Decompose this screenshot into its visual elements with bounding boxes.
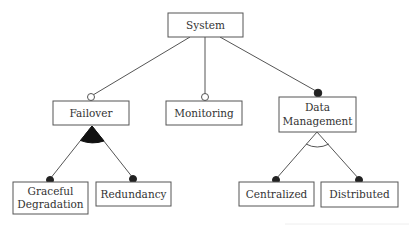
node-label-line2: Degradation xyxy=(17,198,84,210)
node-label-line1: Graceful xyxy=(28,185,74,197)
node-label: System xyxy=(186,19,225,31)
optional-marker-icon xyxy=(88,94,95,101)
node-graceful-degradation: Graceful Degradation xyxy=(13,182,88,214)
node-label: Failover xyxy=(69,107,113,119)
edge-system-failover xyxy=(93,37,190,95)
optional-marker-icon xyxy=(202,94,209,101)
edge-system-data-management xyxy=(220,37,316,91)
edge-dm-centralized xyxy=(276,132,317,179)
node-label-line1: Data xyxy=(305,101,330,113)
node-centralized: Centralized xyxy=(239,182,314,206)
node-failover: Failover xyxy=(53,101,129,125)
edge-dm-distributed xyxy=(317,132,359,179)
node-redundancy: Redundancy xyxy=(96,182,171,206)
feature-model-diagram: System Failover Monitoring Data Manageme… xyxy=(0,0,409,226)
node-distributed: Distributed xyxy=(321,182,398,207)
node-system: System xyxy=(168,13,243,37)
node-data-management: Data Management xyxy=(279,97,356,132)
mandatory-marker-icon xyxy=(314,89,322,97)
mandatory-marker-icon xyxy=(130,176,137,183)
alternative-group-arc-icon xyxy=(306,144,329,147)
node-label: Monitoring xyxy=(174,107,234,119)
node-label-line2: Management xyxy=(282,115,353,127)
node-label: Distributed xyxy=(329,188,390,200)
node-label: Redundancy xyxy=(101,188,167,200)
or-group-arc-icon xyxy=(81,126,105,143)
node-label: Centralized xyxy=(246,188,308,200)
node-monitoring: Monitoring xyxy=(166,101,242,125)
